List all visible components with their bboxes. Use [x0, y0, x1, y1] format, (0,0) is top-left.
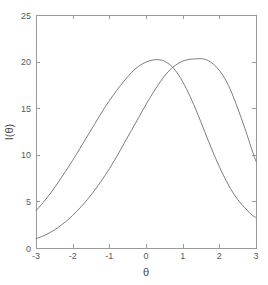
- y-tick-label: 0: [26, 244, 31, 254]
- x-tick-label: 1: [180, 251, 185, 261]
- y-tick-label: 20: [21, 57, 31, 67]
- x-tick-label: 3: [253, 251, 258, 261]
- plot-frame: [36, 15, 256, 248]
- data-curve-curve-2: [36, 59, 256, 239]
- y-tick-labels: 0510152025: [21, 11, 31, 254]
- x-tick-label: -1: [105, 251, 113, 261]
- y-axis-label: I(θ): [3, 124, 15, 141]
- y-tick-marks: [36, 16, 256, 249]
- x-tick-label: 0: [143, 251, 148, 261]
- x-tick-label: -2: [69, 251, 77, 261]
- y-tick-label: 25: [21, 11, 31, 21]
- x-tick-label: 2: [217, 251, 222, 261]
- y-tick-label: 15: [21, 104, 31, 114]
- x-tick-labels: -3-2-10123: [32, 251, 259, 261]
- data-curves: [36, 59, 256, 239]
- axis-frame: [36, 15, 256, 248]
- x-tick-marks: [37, 15, 257, 248]
- line-plot: -3-2-10123 0510152025 θ I(θ): [0, 0, 268, 285]
- data-curve-curve-1: [36, 60, 256, 218]
- figure-container: -3-2-10123 0510152025 θ I(θ): [0, 0, 268, 285]
- y-tick-label: 10: [21, 150, 31, 160]
- x-axis-label: θ: [143, 266, 149, 278]
- x-tick-label: -3: [32, 251, 40, 261]
- y-tick-label: 5: [26, 197, 31, 207]
